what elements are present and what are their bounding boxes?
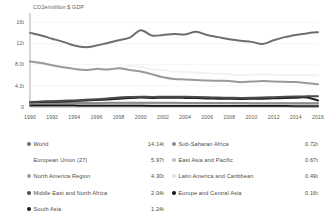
legend-item-value: 14.14t bbox=[148, 141, 164, 147]
legend-item-value: 0.72t bbox=[305, 141, 318, 147]
series-line bbox=[30, 103, 318, 104]
legend-item-label: World bbox=[34, 141, 49, 147]
x-axis-tick-label: 2004 bbox=[173, 114, 197, 120]
legend-item-value: 5.97t bbox=[151, 157, 164, 163]
x-axis-tick-label: 2000 bbox=[129, 114, 153, 120]
x-axis-tick-label: 1990 bbox=[18, 114, 42, 120]
x-axis-tick-label: 1992 bbox=[40, 114, 64, 120]
legend-item-value: 0.67t bbox=[305, 157, 318, 163]
legend-item[interactable]: Latin America and Caribbean0.49t bbox=[172, 168, 320, 184]
y-axis-tick-label: 8.0t bbox=[8, 61, 24, 67]
legend-item-label: Latin America and Caribbean bbox=[179, 173, 254, 179]
x-axis-tick-label: 2012 bbox=[262, 114, 286, 120]
legend-item[interactable]: South Asia1.24t bbox=[27, 201, 167, 217]
legend-item-value: 0.16t bbox=[305, 190, 318, 196]
y-axis-tick-label: 12t bbox=[8, 40, 24, 46]
chart-canvas bbox=[0, 0, 324, 132]
legend-color-swatch-icon bbox=[172, 174, 176, 178]
x-axis-tick-label: 2016 bbox=[306, 114, 329, 120]
series-line bbox=[30, 105, 318, 106]
legend-item-value: 1.24t bbox=[151, 206, 164, 212]
x-axis-tick-label: 1994 bbox=[62, 114, 86, 120]
x-axis-tick-label: 2008 bbox=[217, 114, 241, 120]
legend-color-swatch-icon bbox=[27, 174, 31, 178]
legend-item-label: Sub-Saharan Africa bbox=[179, 141, 229, 147]
x-axis-tick-label: 1998 bbox=[107, 114, 131, 120]
legend-color-swatch-icon bbox=[27, 207, 31, 211]
legend-item[interactable]: Sub-Saharan Africa0.72t bbox=[172, 136, 320, 152]
legend-item-label: North America Region bbox=[34, 173, 91, 179]
legend-item-value: 0.49t bbox=[305, 173, 318, 179]
x-axis-tick-label: 2010 bbox=[240, 114, 264, 120]
legend-color-swatch-icon bbox=[27, 142, 31, 146]
legend-color-swatch-icon bbox=[27, 158, 31, 162]
legend-item[interactable]: European Union (27)5.97t bbox=[27, 152, 167, 168]
legend-item-label: European Union (27) bbox=[34, 157, 88, 163]
legend-item-value: 2.04t bbox=[151, 190, 164, 196]
legend-item-label: South Asia bbox=[34, 206, 62, 212]
chart-legend: World14.14tEuropean Union (27)5.97tNorth… bbox=[0, 136, 324, 215]
legend-column-left: World14.14tEuropean Union (27)5.97tNorth… bbox=[27, 136, 167, 217]
legend-color-swatch-icon bbox=[27, 191, 31, 195]
series-line bbox=[30, 30, 318, 47]
x-axis-tick-label: 2014 bbox=[284, 114, 308, 120]
y-axis-tick-label: 0 bbox=[8, 104, 24, 110]
legend-color-swatch-icon bbox=[172, 142, 176, 146]
y-axis-tick-label: 16t bbox=[8, 19, 24, 25]
legend-column-right: Sub-Saharan Africa0.72tEast Asia and Pac… bbox=[172, 136, 320, 201]
plot-area: CO2e/million $ GDP 16t12t8.0t4.0t0 19901… bbox=[0, 0, 324, 132]
x-axis-tick-label: 2006 bbox=[195, 114, 219, 120]
legend-item-label: Europe and Central Asia bbox=[179, 190, 242, 196]
legend-item[interactable]: Europe and Central Asia0.16t bbox=[172, 185, 320, 201]
legend-color-swatch-icon bbox=[172, 191, 176, 195]
x-axis-tick-label: 1996 bbox=[84, 114, 108, 120]
legend-item-value: 4.30t bbox=[151, 173, 164, 179]
legend-item[interactable]: Middle East and North Africa2.04t bbox=[27, 185, 167, 201]
legend-item[interactable]: World14.14t bbox=[27, 136, 167, 152]
y-axis-tick-label: 4.0t bbox=[8, 83, 24, 89]
legend-item-label: East Asia and Pacific bbox=[179, 157, 233, 163]
legend-item[interactable]: North America Region4.30t bbox=[27, 168, 167, 184]
legend-item[interactable]: East Asia and Pacific0.67t bbox=[172, 152, 320, 168]
legend-item-label: Middle East and North Africa bbox=[34, 190, 108, 196]
x-axis-tick-label: 2002 bbox=[151, 114, 175, 120]
legend-color-swatch-icon bbox=[172, 158, 176, 162]
